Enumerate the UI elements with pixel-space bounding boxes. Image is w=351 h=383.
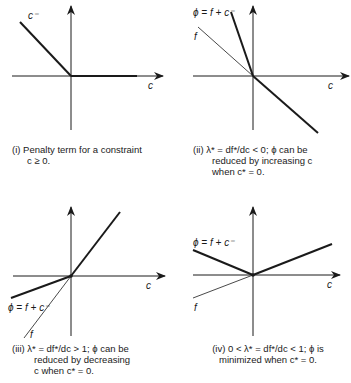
caption-line: reduced by decreasing (12, 354, 130, 365)
f-label: f (30, 329, 34, 340)
phi-line-right (253, 244, 332, 275)
f-line (193, 275, 253, 298)
phi-line-left (11, 276, 71, 298)
phi-line-right (253, 76, 318, 133)
caption-line: 0 < λ* = df*/dc < 1; ϕ is (228, 343, 324, 354)
c-axis-label: c (327, 279, 332, 290)
caption-iii: (iii) λ* = df*/dc > 1; ϕ can be reduced … (12, 343, 130, 376)
f-label: f (194, 302, 198, 313)
caption-i: (i) Penalty term for a constraint c ≥ 0. (12, 144, 142, 166)
caption-line: Penalty term for a constraint (23, 144, 142, 155)
penalty-diagram: c⁻ c ϕ = f + c⁻ f c ϕ = f + c⁻ f c ϕ = f… (0, 0, 351, 383)
origin-point (69, 274, 73, 278)
caption-ii: (ii) λ* = df*/dc < 0; ϕ can be reduced b… (193, 144, 312, 177)
c-axis-label: c (146, 280, 151, 291)
caption-number: (i) (12, 144, 20, 155)
caption-number: (ii) (193, 144, 204, 155)
phi-label: ϕ = f + c⁻ (8, 302, 50, 313)
panel-iii-plot: ϕ = f + c⁻ f c (8, 207, 165, 340)
c-axis-label: c (148, 80, 153, 91)
phi-label: ϕ = f + c⁻ (193, 237, 235, 248)
caption-iv: (iv) 0 < λ* = df*/dc < 1; ϕ is minimized… (193, 343, 343, 365)
caption-number: (iv) (212, 343, 225, 354)
f-label: f (194, 31, 198, 42)
phi-label: ϕ = f + c⁻ (193, 7, 235, 18)
caption-number: (iii) (12, 343, 25, 354)
caption-line: c ≥ 0. (12, 155, 142, 166)
panel-ii-plot: ϕ = f + c⁻ f c (193, 6, 349, 133)
panel-iv-plot: ϕ = f + c⁻ f c (193, 207, 340, 336)
penalty-line-left (20, 22, 71, 76)
caption-line: when c* = 0. (193, 166, 312, 177)
c-minus-label: c⁻ (28, 10, 39, 21)
caption-line: c when c* = 0. (12, 365, 130, 376)
caption-line: λ* = df*/dc > 1; ϕ can be (27, 343, 128, 354)
caption-line: reduced by increasing c (193, 155, 312, 166)
c-axis-label: c (328, 80, 333, 91)
caption-line: minimized when c* = 0. (193, 354, 343, 365)
phi-line-right (71, 212, 120, 276)
panel-i-plot: c⁻ c (12, 6, 163, 130)
phi-line-left (193, 250, 253, 275)
origin-point (251, 273, 255, 277)
caption-line: λ* = df*/dc < 0; ϕ can be (206, 144, 307, 155)
